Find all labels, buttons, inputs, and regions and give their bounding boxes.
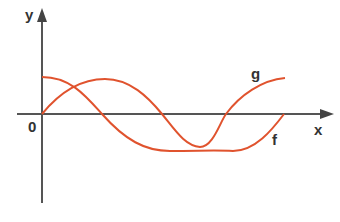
curve-g-label: g [251, 66, 260, 81]
y-axis [37, 8, 47, 203]
curve-g [42, 78, 285, 147]
curve-f-label: f [272, 132, 277, 147]
y-axis-label: y [25, 7, 33, 22]
graph-canvas [0, 0, 340, 222]
x-axis [17, 109, 334, 119]
origin-label: 0 [28, 119, 36, 134]
x-axis-label: x [314, 122, 322, 137]
